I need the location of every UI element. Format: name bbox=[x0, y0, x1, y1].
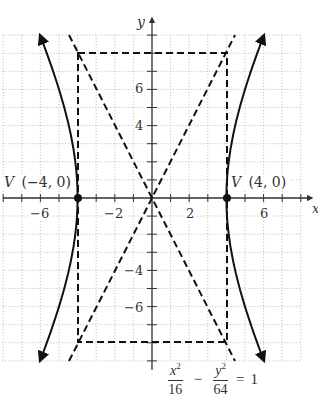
svg-text:6: 6 bbox=[135, 81, 143, 96]
vertex-left-label: V (−4, 0) bbox=[4, 174, 71, 190]
svg-text:2: 2 bbox=[186, 206, 194, 221]
svg-text:−6: −6 bbox=[124, 300, 143, 315]
hyperbola-graph: V (−4, 0) V (4, 0) y x −6 −2 2 6 6 4 −4 … bbox=[0, 0, 318, 401]
x-axis-label: x bbox=[312, 201, 318, 216]
minus-sign: − bbox=[194, 371, 202, 388]
svg-text:6: 6 bbox=[260, 206, 268, 221]
vertex-right-label: V (4, 0) bbox=[231, 174, 286, 190]
fraction-y: y2 64 bbox=[213, 362, 228, 397]
y-axis-label: y bbox=[136, 14, 146, 30]
svg-text:−2: −2 bbox=[104, 206, 123, 221]
equals-sign: = bbox=[236, 371, 244, 388]
svg-text:4: 4 bbox=[135, 118, 143, 133]
svg-text:−6: −6 bbox=[30, 206, 49, 221]
vertex-left-point bbox=[74, 194, 82, 202]
fraction-x: x2 16 bbox=[168, 362, 183, 397]
x-tick-labels: −6 −2 2 6 bbox=[29, 206, 271, 221]
hyperbola-equation: x2 16 − y2 64 = 1 bbox=[168, 362, 258, 397]
vertex-right-point bbox=[223, 194, 231, 202]
svg-text:−4: −4 bbox=[124, 263, 143, 278]
equation-rhs: 1 bbox=[250, 371, 258, 388]
